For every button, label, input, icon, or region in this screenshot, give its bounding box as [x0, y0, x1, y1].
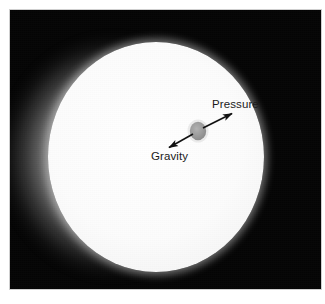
figure-root: Pressure Gravity [0, 0, 325, 304]
gravity-label: Gravity [151, 150, 188, 163]
pressure-label: Pressure [212, 98, 259, 111]
